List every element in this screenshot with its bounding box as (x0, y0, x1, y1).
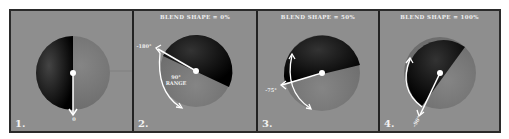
panel-number-2: 2. (138, 118, 148, 129)
angle-label-2: -180° (136, 44, 152, 50)
panel-number-4: 4. (384, 118, 394, 129)
panel-3: BLEND SHAPE = 50% -75° 3. (256, 11, 378, 131)
panel-number-3: 3. (262, 118, 272, 129)
sphere-diagram-2 (134, 11, 256, 131)
sphere-diagram-3 (258, 11, 378, 131)
diagram-strip: 0 1. BLEND SHAPE = 0% -180° 90° RANGE 2 (9, 9, 501, 133)
panel-4: BLEND SHAPE = 100% -90° 4. (378, 11, 499, 131)
blend-shape-title-4: BLEND SHAPE = 100% (380, 14, 499, 20)
panel-number-1: 1. (15, 118, 25, 129)
angle-label-3: -75° (264, 88, 278, 94)
range-label-2: 90° RANGE (164, 75, 188, 86)
angle-label-1: 0 (69, 117, 79, 123)
sphere-diagram-1 (11, 11, 132, 131)
sphere-diagram-4 (380, 11, 499, 131)
blend-shape-title-2: BLEND SHAPE = 0% (134, 14, 256, 20)
panel-2: BLEND SHAPE = 0% -180° 90° RANGE 2. (132, 11, 256, 131)
blend-shape-title-3: BLEND SHAPE = 50% (258, 14, 378, 20)
panel-1: 0 1. (11, 11, 132, 131)
